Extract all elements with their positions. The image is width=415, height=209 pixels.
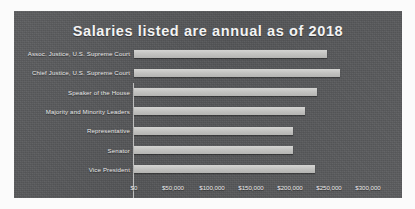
- plot-area: Assoc. Justice, U.S. Supreme Court Chief…: [14, 47, 402, 198]
- bar[interactable]: [134, 88, 317, 96]
- x-axis-tick-labels: $0 $50,000 $100,000 $150,000 $200,000 $2…: [14, 181, 402, 195]
- x-tick-label: $150,000: [238, 181, 263, 195]
- x-tick-label: $100,000: [199, 181, 224, 195]
- category-label: Senator: [14, 144, 130, 157]
- bar-row: Speaker of the House: [14, 86, 402, 99]
- bar-row: Representative: [14, 124, 402, 137]
- x-tick-label: $300,000: [355, 181, 380, 195]
- category-label: Majority and Minority Leaders: [14, 105, 130, 118]
- bar[interactable]: [134, 50, 327, 58]
- x-tick-label: $200,000: [277, 181, 302, 195]
- x-tick-label: $0: [131, 181, 138, 195]
- bar[interactable]: [134, 69, 341, 77]
- bar-row: Assoc. Justice, U.S. Supreme Court: [14, 47, 402, 60]
- bar[interactable]: [134, 107, 306, 115]
- chart-screenshot: Salaries listed are annual as of 2018 As…: [0, 0, 415, 209]
- bar-row: Chief Justice, U.S. Supreme Court: [14, 66, 402, 79]
- bar-row: Vice President: [14, 163, 402, 176]
- category-label: Vice President: [14, 163, 130, 176]
- chart-title: Salaries listed are annual as of 2018: [14, 23, 402, 39]
- bar[interactable]: [134, 127, 293, 135]
- bar-row: Senator: [14, 144, 402, 157]
- x-tick-label: $50,000: [162, 181, 184, 195]
- category-label: Assoc. Justice, U.S. Supreme Court: [14, 47, 130, 60]
- category-label: Speaker of the House: [14, 86, 130, 99]
- bar[interactable]: [134, 165, 316, 173]
- chart-panel: Salaries listed are annual as of 2018 As…: [14, 11, 402, 198]
- bar[interactable]: [134, 146, 293, 154]
- x-tick-label: $250,000: [316, 181, 341, 195]
- category-label: Chief Justice, U.S. Supreme Court: [14, 66, 130, 79]
- category-label: Representative: [14, 124, 130, 137]
- bar-row: Majority and Minority Leaders: [14, 105, 402, 118]
